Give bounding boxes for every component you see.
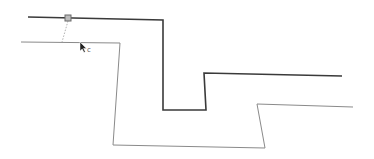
drawing-canvas[interactable]: [0, 0, 374, 159]
vertex-handle[interactable]: [65, 15, 71, 21]
canvas-background: [0, 0, 374, 159]
cursor-label: c: [87, 47, 91, 54]
